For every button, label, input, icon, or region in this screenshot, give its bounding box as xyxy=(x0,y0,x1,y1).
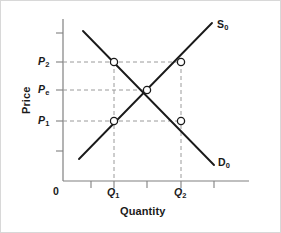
supply-label-sub: 0 xyxy=(224,23,228,32)
marker-equilibrium xyxy=(143,86,150,93)
marker-p1-q1 xyxy=(110,117,117,124)
x-axis-title: Quantity xyxy=(120,206,165,217)
marker-p2-q1 xyxy=(110,58,117,65)
supply-label-base: S xyxy=(217,18,224,30)
y-tick-p1-base: P xyxy=(38,114,45,126)
y-tick-pe-sub: e xyxy=(45,88,49,97)
y-tick-pe-base: P xyxy=(38,83,45,95)
y-tick-label-p2: P2 xyxy=(38,56,49,68)
marker-p1-q2 xyxy=(177,117,184,124)
x-tick-q2-sub: 2 xyxy=(182,191,186,200)
x-tick-label-q2: Q2 xyxy=(174,187,187,199)
origin-label: 0 xyxy=(53,186,59,197)
demand-curve xyxy=(83,31,214,165)
x-tick-q1-base: Q xyxy=(107,186,115,198)
y-axis-title: Price xyxy=(21,87,32,114)
demand-curve-label: D0 xyxy=(218,157,230,169)
demand-label-base: D xyxy=(218,156,226,168)
y-tick-label-pe: Pe xyxy=(38,84,49,96)
y-tick-label-p1: P1 xyxy=(38,115,49,127)
supply-curve-label: S0 xyxy=(217,19,228,31)
y-tick-p2-base: P xyxy=(38,55,45,67)
x-tick-q2-base: Q xyxy=(174,186,182,198)
supply-demand-chart: Price Quantity 0 P2 Pe P1 Q1 Q2 S0 D0 xyxy=(0,0,281,233)
y-tick-p1-sub: 1 xyxy=(45,119,49,128)
x-tick-q1-sub: 1 xyxy=(115,191,119,200)
x-tick-label-q1: Q1 xyxy=(107,187,120,199)
y-axis-ticks xyxy=(56,33,63,151)
marker-p2-q2 xyxy=(177,58,184,65)
demand-label-sub: 0 xyxy=(226,161,230,170)
y-tick-p2-sub: 2 xyxy=(45,60,49,69)
